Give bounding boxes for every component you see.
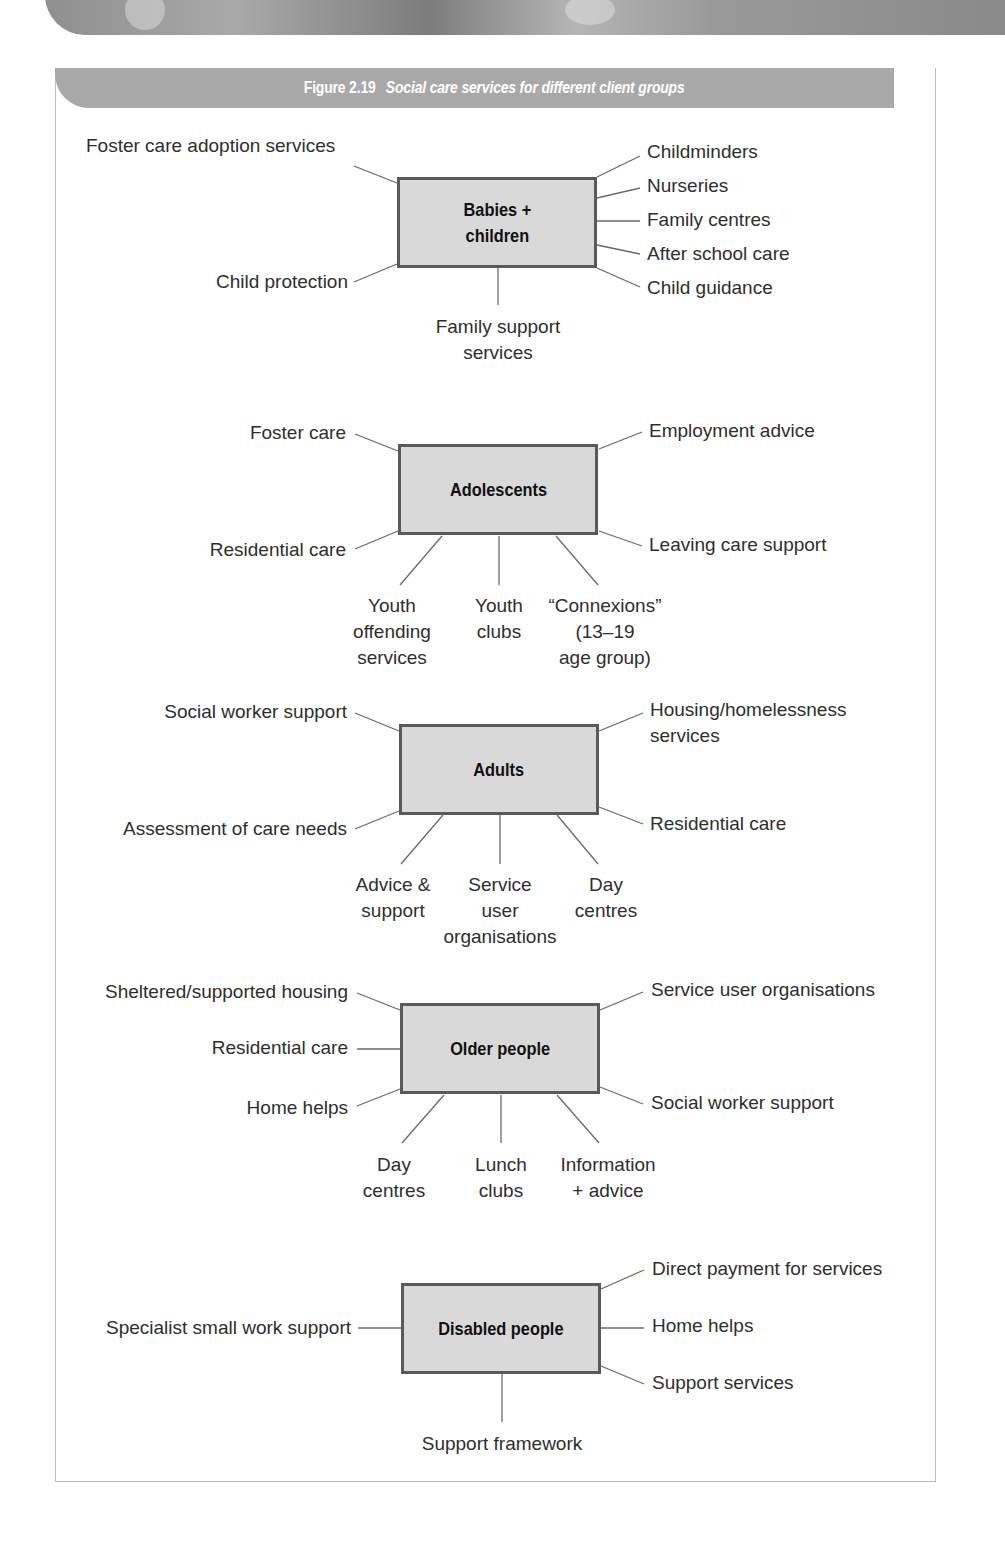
- group-title: Adults: [474, 757, 525, 783]
- group-title: Disabled people: [438, 1316, 563, 1342]
- group-box-babies-children: Babies + children: [397, 177, 597, 268]
- figure-caption: Figure 2.19 Social care services for dif…: [304, 78, 685, 98]
- label-line: services: [398, 340, 598, 366]
- label-line: Day: [561, 872, 651, 898]
- label-line: clubs: [459, 619, 539, 645]
- service-label: Child protection: [216, 269, 348, 295]
- figure-title: Social care services for different clien…: [386, 78, 685, 97]
- service-label: Childminders: [647, 139, 758, 165]
- service-label: Information + advice: [548, 1152, 668, 1204]
- label-line: services: [650, 723, 846, 749]
- page-header-banner: [45, 0, 1005, 35]
- service-label: Support services: [652, 1370, 794, 1396]
- label-line: services: [332, 645, 452, 671]
- label-line: clubs: [461, 1178, 541, 1204]
- service-label: Support framework: [402, 1431, 602, 1457]
- service-label: Day centres: [561, 872, 651, 924]
- service-label: Housing/homelessness services: [650, 697, 846, 749]
- service-label: “Connexions” (13–19 age group): [540, 593, 670, 671]
- label-line: offending: [332, 619, 452, 645]
- service-label: Youth offending services: [332, 593, 452, 671]
- group-title-line: children: [463, 223, 531, 249]
- label-line: user: [435, 898, 565, 924]
- service-label: Assessment of care needs: [123, 816, 347, 842]
- service-label: Social worker support: [651, 1090, 834, 1116]
- service-label: Foster care: [250, 420, 346, 446]
- label-line: “Connexions”: [540, 593, 670, 619]
- label-line: Information: [548, 1152, 668, 1178]
- banner-decoration: [565, 0, 615, 25]
- service-label: Specialist small work support: [106, 1315, 351, 1341]
- service-label: Service user organisations: [435, 872, 565, 950]
- service-label: Family support services: [398, 314, 598, 366]
- group-box-adults: Adults: [399, 724, 599, 815]
- service-label: Residential care: [212, 1035, 348, 1061]
- label-line: centres: [561, 898, 651, 924]
- group-title: Adolescents: [449, 477, 546, 503]
- label-line: centres: [349, 1178, 439, 1204]
- service-label: Social worker support: [164, 699, 347, 725]
- service-label: Leaving care support: [649, 532, 826, 558]
- service-label: Child guidance: [647, 275, 773, 301]
- service-label: Day centres: [349, 1152, 439, 1204]
- label-line: organisations: [435, 924, 565, 950]
- label-line: Day: [349, 1152, 439, 1178]
- service-label: Advice & support: [338, 872, 448, 924]
- service-label: Home helps: [652, 1313, 753, 1339]
- group-box-disabled-people: Disabled people: [401, 1283, 601, 1374]
- service-label: Employment advice: [649, 418, 815, 444]
- service-label: Foster care adoption services: [86, 133, 335, 159]
- figure-caption-bar: Figure 2.19 Social care services for dif…: [55, 68, 933, 108]
- group-title: Older people: [450, 1036, 550, 1062]
- service-label: Direct payment for services: [652, 1256, 882, 1282]
- label-line: Youth: [332, 593, 452, 619]
- service-label: Sheltered/supported housing: [105, 979, 348, 1005]
- service-label: After school care: [647, 241, 790, 267]
- service-label: Residential care: [650, 811, 786, 837]
- service-label: Residential care: [210, 537, 346, 563]
- service-label: Nurseries: [647, 173, 728, 199]
- service-label: Service user organisations: [651, 977, 875, 1003]
- group-box-older-people: Older people: [400, 1003, 600, 1094]
- figure-number: Figure 2.19: [304, 78, 376, 97]
- banner-decoration: [125, 0, 165, 30]
- service-label: Family centres: [647, 207, 771, 233]
- label-line: Lunch: [461, 1152, 541, 1178]
- group-box-adolescents: Adolescents: [398, 444, 598, 535]
- label-line: Advice &: [338, 872, 448, 898]
- service-label: Youth clubs: [459, 593, 539, 645]
- group-title-line: Babies +: [463, 197, 531, 223]
- label-line: Housing/homelessness: [650, 697, 846, 723]
- label-line: Family support: [398, 314, 598, 340]
- label-line: support: [338, 898, 448, 924]
- label-line: (13–19: [540, 619, 670, 645]
- service-label: Lunch clubs: [461, 1152, 541, 1204]
- label-line: Service: [435, 872, 565, 898]
- label-line: age group): [540, 645, 670, 671]
- label-line: Youth: [459, 593, 539, 619]
- label-line: + advice: [548, 1178, 668, 1204]
- service-label: Home helps: [247, 1095, 348, 1121]
